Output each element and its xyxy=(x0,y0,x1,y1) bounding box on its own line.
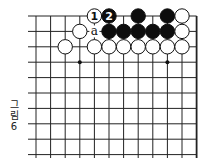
black-stone xyxy=(131,24,145,38)
black-stone xyxy=(131,9,145,23)
caption-number: 6 xyxy=(7,121,21,132)
move-number-label: 2 xyxy=(105,10,113,23)
white-stone xyxy=(175,9,189,23)
white-stone xyxy=(160,40,174,54)
white-stone xyxy=(102,40,116,54)
white-stone xyxy=(175,24,189,38)
black-stone xyxy=(102,24,116,38)
star-point xyxy=(78,60,82,64)
caption-char-2: 림 xyxy=(7,110,21,121)
black-stone xyxy=(160,9,174,23)
star-point xyxy=(165,60,169,64)
black-stone xyxy=(146,24,160,38)
white-stone xyxy=(175,40,189,54)
go-board: 12 a xyxy=(0,0,210,158)
point-label-a: a xyxy=(91,24,98,38)
black-stone xyxy=(116,24,130,38)
point-labels: a xyxy=(89,24,99,38)
white-stone xyxy=(116,40,130,54)
caption-char-1: 그 xyxy=(7,99,21,110)
black-stone xyxy=(160,24,174,38)
white-stone xyxy=(73,24,87,38)
white-stone xyxy=(131,40,145,54)
figure-caption: 그 림 6 xyxy=(7,99,21,132)
white-stone xyxy=(58,40,72,54)
white-stone xyxy=(146,40,160,54)
white-stone xyxy=(87,40,101,54)
move-number-label: 1 xyxy=(91,10,99,23)
